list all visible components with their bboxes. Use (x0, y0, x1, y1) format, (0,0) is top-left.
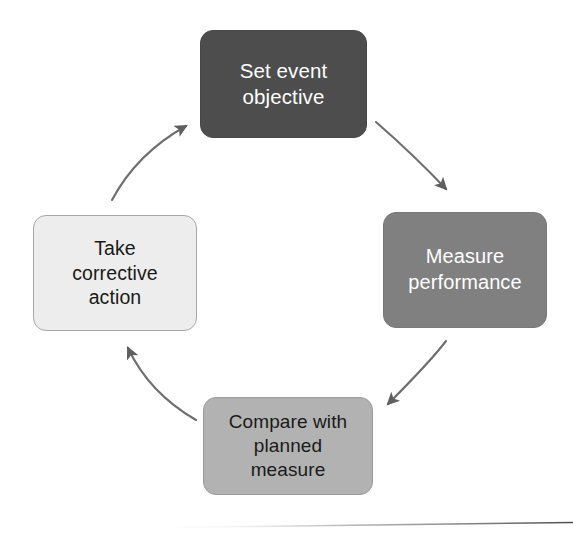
arrow-measure-to-compare (388, 341, 446, 404)
diagram-canvas: Set event objective Measure performance … (0, 0, 573, 535)
arrow-corrective-to-objective (112, 126, 186, 200)
node-set-event-objective[interactable]: Set event objective (200, 30, 367, 138)
node-label: Measure performance (402, 244, 527, 295)
arrow-objective-to-measure (376, 122, 446, 189)
node-take-corrective-action[interactable]: Take corrective action (33, 215, 197, 331)
node-label: Take corrective action (66, 236, 164, 311)
node-measure-performance[interactable]: Measure performance (383, 212, 547, 328)
node-label: Compare with planned measure (223, 410, 353, 483)
node-label: Set event objective (234, 58, 334, 110)
arrow-compare-to-corrective (128, 348, 196, 420)
node-compare-with-planned-measure[interactable]: Compare with planned measure (203, 397, 373, 495)
